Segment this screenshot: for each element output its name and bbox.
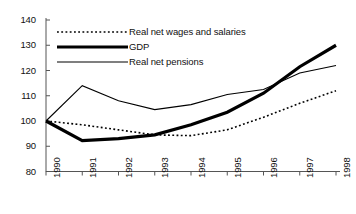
y-axis-tick-label: 80 [8, 166, 36, 177]
y-axis-tick-label: 140 [8, 14, 36, 25]
legend-label: Real net pensions [129, 56, 203, 67]
x-axis-tick-label: 1996 [268, 157, 279, 178]
x-axis-tick-label: 1992 [123, 157, 134, 178]
x-axis-tick-label: 1990 [51, 157, 62, 178]
legend-label: GDP [129, 41, 149, 52]
x-axis-tick-label: 1994 [196, 157, 207, 178]
y-axis-ticks [46, 20, 50, 172]
axis-lines [46, 18, 340, 172]
y-axis-tick-label: 120 [8, 65, 36, 76]
y-axis-tick-label: 100 [8, 115, 36, 126]
y-axis-tick-label: 110 [8, 90, 36, 101]
x-axis-tick-label: 1998 [341, 157, 352, 178]
line-chart: 8090100110120130140 19901991199219931994… [0, 0, 356, 214]
legend-sample-lines [57, 32, 128, 62]
legend-label: Real net wages and salaries [129, 26, 246, 37]
x-axis-tick-label: 1991 [87, 157, 98, 178]
y-axis-tick-label: 130 [8, 39, 36, 50]
series-line-0 [46, 91, 336, 136]
x-axis-tick-label: 1995 [232, 157, 243, 178]
x-axis-tick-label: 1997 [304, 157, 315, 178]
y-axis-tick-label: 90 [8, 140, 36, 151]
x-axis-tick-label: 1993 [159, 157, 170, 178]
